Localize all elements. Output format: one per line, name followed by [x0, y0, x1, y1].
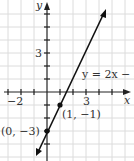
x-axis-label: x	[124, 94, 131, 107]
x-tick-label-3: 3	[83, 95, 90, 108]
x-tick-label-neg2: −2	[7, 95, 23, 108]
point-0-neg3	[44, 128, 49, 133]
coordinate-plane: y x −2 3 3 y = 2x − 3 (0, −3) (1, −1)	[0, 0, 134, 161]
y-axis-arrow-icon	[44, 2, 50, 10]
equation-label: y = 2x − 3	[81, 68, 134, 81]
point-1-neg1	[57, 102, 62, 107]
point-label-1-neg1: (1, −1)	[62, 108, 101, 121]
point-label-0-neg3: (0, −3)	[1, 125, 40, 138]
y-axis-label: y	[35, 0, 43, 12]
y-tick-label-3: 3	[35, 47, 42, 60]
